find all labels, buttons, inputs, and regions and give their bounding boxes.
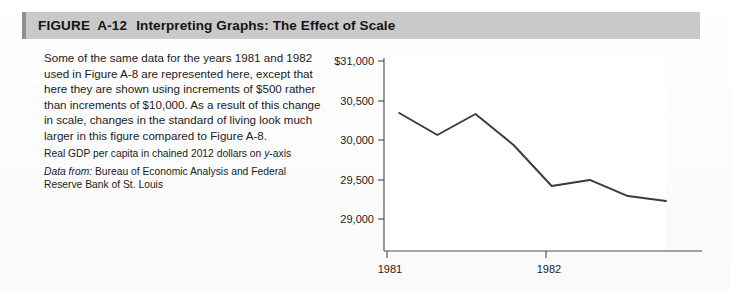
y-tick-label-30500: 30,500 [340, 95, 374, 107]
y-tick-label-31000: $31,000 [334, 55, 374, 67]
chart-svg: $31,000 30,500 30,000 29,500 29,000 1981… [330, 48, 715, 278]
figure-header-band: FIGURE A-12 Interpreting Graphs: The Eff… [22, 12, 700, 39]
figure-label: FIGURE [38, 18, 90, 33]
y-axis-ticks: $31,000 30,500 30,000 29,500 29,000 [334, 55, 384, 225]
figure-body-paragraph: Some of the same data for the years 1981… [44, 50, 326, 144]
y-tick-label-30000: 30,000 [340, 134, 374, 146]
x-tick-label-1981: 1981 [378, 263, 402, 275]
source-note-label: Data from: [44, 166, 92, 177]
line-chart: $31,000 30,500 30,000 29,500 29,000 1981… [330, 48, 715, 278]
figure-number: A-12 [97, 18, 127, 33]
figure-container: FIGURE A-12 Interpreting Graphs: The Eff… [0, 0, 731, 291]
y-tick-label-29000: 29,000 [340, 213, 374, 225]
y-tick-label-29500: 29,500 [340, 174, 374, 186]
axis-note: Real GDP per capita in chained 2012 doll… [44, 147, 326, 161]
plot-background [384, 56, 666, 251]
figure-title-group: FIGURE A-12 Interpreting Graphs: The Eff… [26, 18, 395, 33]
axis-note-text: Real GDP per capita in chained 2012 doll… [44, 148, 264, 159]
figure-text-column: Some of the same data for the years 1981… [44, 50, 326, 191]
figure-caption-title: Interpreting Graphs: The Effect of Scale [136, 18, 395, 33]
x-tick-label-1982: 1982 [537, 263, 561, 275]
x-axis-ticks: 1981 1982 [378, 251, 561, 275]
source-note: Data from: Bureau of Economic Analysis a… [44, 165, 326, 192]
axis-note-suffix: -axis [269, 148, 291, 159]
